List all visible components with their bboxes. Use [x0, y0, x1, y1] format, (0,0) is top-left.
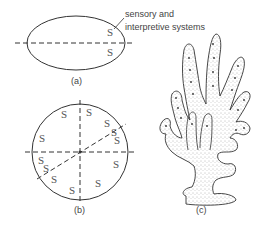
s-symbol: S	[104, 117, 110, 129]
diagram-canvas: S S sensory and interpretive systems (a)…	[0, 0, 266, 229]
panel-a: S S sensory and interpretive systems (a)	[15, 9, 206, 86]
panel-b: S S S S S S S S S S S S (b)	[25, 100, 134, 215]
sensory-symbol-top: S	[107, 26, 113, 38]
caption-c: (c)	[196, 205, 207, 215]
s-symbol: S	[43, 162, 49, 174]
s-symbol: S	[113, 158, 119, 170]
caption-a: (a)	[71, 76, 82, 86]
figure: S S sensory and interpretive systems (a)…	[0, 0, 266, 229]
annotation-line-1: sensory and	[125, 9, 174, 19]
s-symbol: S	[61, 108, 67, 120]
s-symbol: S	[51, 173, 57, 185]
center-point	[79, 151, 82, 154]
sensory-symbol-bottom: S	[107, 46, 113, 58]
annotation-leader-line	[114, 18, 124, 29]
s-symbol: S	[69, 184, 75, 196]
annotation-line-2: interpretive systems	[125, 22, 206, 32]
s-symbol: S	[114, 134, 120, 146]
panel-c: (c)	[160, 34, 250, 215]
caption-b: (b)	[74, 205, 85, 215]
s-symbol: S	[95, 177, 101, 189]
branching-organism	[160, 34, 250, 205]
s-symbol: S	[39, 132, 45, 144]
s-symbol: S	[86, 106, 92, 118]
